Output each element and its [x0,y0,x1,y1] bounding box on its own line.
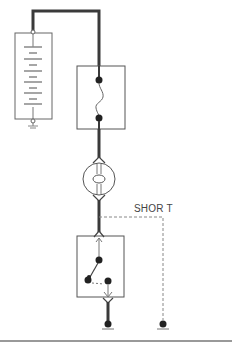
short-label: SHOR T [134,203,173,214]
ground-main [102,321,114,330]
ground-short [157,321,169,330]
battery [15,30,52,128]
switch [77,231,124,303]
fuse [77,66,125,129]
circuit-diagram [0,0,232,345]
wire-top [33,11,99,66]
bulb [83,157,115,201]
